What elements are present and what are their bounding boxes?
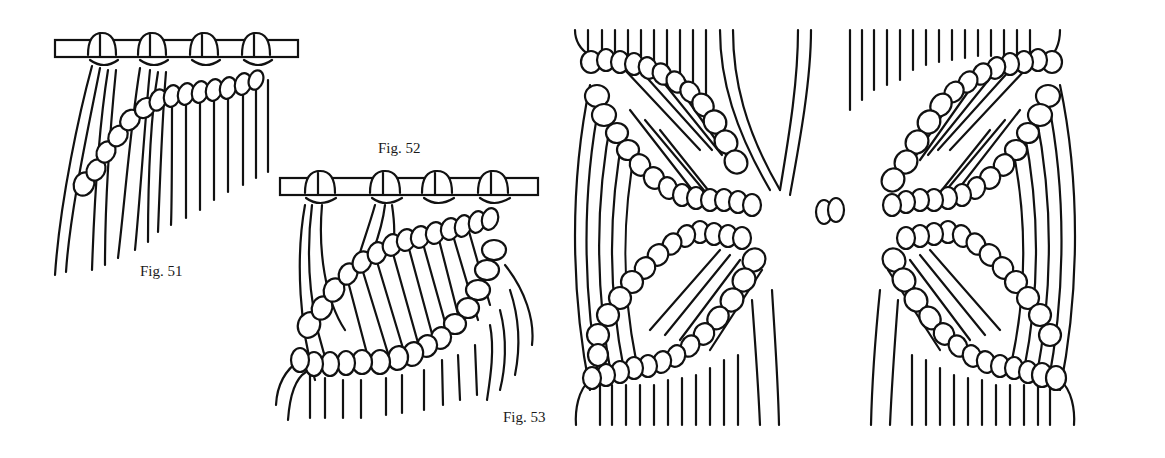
figure-53-drawing [575, 30, 1075, 425]
figure-52-drawing [276, 171, 538, 420]
figure-51-drawing [55, 33, 298, 275]
figure-53-caption: Fig. 53 [503, 409, 546, 426]
macrame-illustration [0, 0, 1165, 458]
figure-51-caption: Fig. 51 [140, 263, 183, 280]
outer-cords [575, 85, 1075, 390]
figure-52-caption: Fig. 52 [378, 140, 421, 157]
